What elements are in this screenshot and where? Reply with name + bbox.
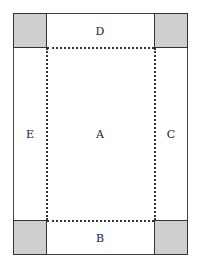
corner-square-bottom-left xyxy=(13,220,47,255)
fold-line-top xyxy=(47,47,154,49)
label-d: D xyxy=(96,25,105,38)
fold-line-left xyxy=(46,48,48,220)
label-b: B xyxy=(96,232,104,245)
fold-line-bottom xyxy=(47,220,154,222)
corner-square-top-right xyxy=(154,13,188,48)
fold-line-right xyxy=(154,48,156,220)
corner-square-top-left xyxy=(13,13,47,48)
label-c: C xyxy=(167,128,175,141)
corner-square-bottom-right xyxy=(154,220,188,255)
label-e: E xyxy=(26,128,34,141)
label-a: A xyxy=(96,128,104,141)
